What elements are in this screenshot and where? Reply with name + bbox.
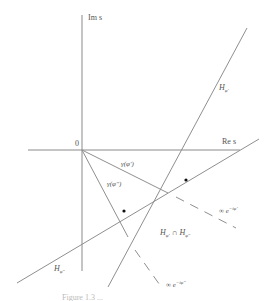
inf-phi-dprime-label: ∞ e−iφ'' — [166, 280, 186, 289]
h-phi-dprime-label: Hφ'' — [53, 264, 66, 274]
cap-symbol: ∩ — [170, 228, 180, 237]
figure-caption: Figure 1.3 ... — [62, 293, 103, 301]
inf-phi-prime-exp: −iφ' — [229, 206, 239, 211]
h-phi-dprime-sub: φ'' — [60, 269, 66, 274]
gamma-phi-dprime-label: γ(φ'') — [107, 180, 122, 188]
h-phi-prime-sub: φ' — [225, 88, 230, 93]
real-axis-label: Re s — [222, 137, 236, 146]
h-phi-prime-line — [108, 28, 247, 287]
origin-label: 0 — [75, 139, 79, 148]
gamma-phi-prime-ray — [82, 150, 168, 193]
region-b-sub: φ'' — [185, 233, 191, 238]
inf-phi-dprime-exp: −iφ'' — [176, 280, 187, 285]
inf-phi-prime-label: ∞ e−iφ' — [219, 206, 238, 215]
contour-diagram: Im s Re s 0 Hφ' Hφ'' γ(φ') γ(φ'') ∞ e−iφ… — [0, 0, 270, 301]
intersection-region-label: Hφ' ∩ Hφ'' — [159, 228, 191, 238]
imag-axis-label: Im s — [88, 13, 102, 22]
point-dot — [122, 209, 125, 212]
inf-phi-prime-main: ∞ e — [219, 207, 229, 215]
gamma-phi-dprime-dashed — [135, 250, 162, 288]
point-dot — [184, 178, 187, 181]
inf-phi-dprime-main: ∞ e — [166, 281, 176, 289]
h-phi-prime-label: Hφ' — [218, 83, 230, 93]
gamma-phi-prime-label: γ(φ') — [121, 160, 134, 168]
